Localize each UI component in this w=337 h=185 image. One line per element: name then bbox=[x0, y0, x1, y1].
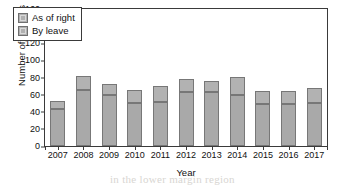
bar-segment-as-of-right[interactable] bbox=[281, 91, 296, 104]
legend-swatch-icon bbox=[18, 13, 28, 23]
bar-segment-by-leave[interactable] bbox=[255, 104, 270, 146]
y-axis-tick-label: 80 bbox=[30, 73, 45, 82]
x-axis-tick-label: 2011 bbox=[151, 151, 170, 160]
y-axis-tick-label: 60 bbox=[30, 90, 45, 99]
x-axis-tick-mark bbox=[45, 146, 46, 150]
legend-item-by-leave: By leave bbox=[18, 24, 75, 37]
bar-segment-as-of-right[interactable] bbox=[127, 90, 142, 103]
x-axis-tick-label: 2009 bbox=[99, 151, 119, 160]
bar-segment-as-of-right[interactable] bbox=[50, 101, 65, 110]
bar-segment-by-leave[interactable] bbox=[179, 92, 194, 146]
x-axis-tick-label: 2015 bbox=[253, 151, 273, 160]
bar-2012[interactable] bbox=[179, 9, 194, 146]
appeals-by-year-chart: Number of Appeals 0204060801001201401602… bbox=[0, 0, 337, 185]
bar-segment-as-of-right[interactable] bbox=[179, 79, 194, 92]
x-axis-tick-label: 2017 bbox=[304, 151, 324, 160]
bar-2009[interactable] bbox=[102, 9, 117, 146]
legend-item-as-of-right: As of right bbox=[18, 11, 75, 24]
legend-label: By leave bbox=[32, 26, 68, 36]
bar-segment-as-of-right[interactable] bbox=[204, 81, 219, 92]
x-axis-tick-label: 2008 bbox=[73, 151, 93, 160]
bar-2017[interactable] bbox=[307, 9, 322, 146]
bar-segment-by-leave[interactable] bbox=[50, 109, 65, 146]
y-axis-tick-label: 20 bbox=[30, 124, 45, 133]
x-axis-tick-mark bbox=[327, 146, 328, 150]
bar-2011[interactable] bbox=[153, 9, 168, 146]
bar-segment-by-leave[interactable] bbox=[281, 104, 296, 146]
bar-2010[interactable] bbox=[127, 9, 142, 146]
x-axis-tick-label: 2010 bbox=[125, 151, 145, 160]
bar-segment-by-leave[interactable] bbox=[102, 95, 117, 146]
bar-2014[interactable] bbox=[230, 9, 245, 146]
bar-segment-as-of-right[interactable] bbox=[153, 86, 168, 102]
bar-segment-by-leave[interactable] bbox=[127, 103, 142, 146]
y-axis-tick-label: 100 bbox=[25, 56, 45, 65]
bar-segment-by-leave[interactable] bbox=[230, 95, 245, 146]
x-axis-title: Year bbox=[44, 167, 328, 178]
x-axis-tick-label: 2016 bbox=[279, 151, 299, 160]
x-axis-tick-label: 2013 bbox=[202, 151, 222, 160]
bar-segment-by-leave[interactable] bbox=[153, 102, 168, 146]
bar-segment-as-of-right[interactable] bbox=[76, 76, 91, 90]
legend-swatch-icon bbox=[18, 26, 28, 36]
bar-2015[interactable] bbox=[255, 9, 270, 146]
bar-segment-by-leave[interactable] bbox=[307, 103, 322, 146]
bar-segment-as-of-right[interactable] bbox=[102, 84, 117, 94]
bar-segment-as-of-right[interactable] bbox=[230, 77, 245, 96]
bar-segment-as-of-right[interactable] bbox=[307, 88, 322, 103]
x-axis-tick-label: 2012 bbox=[176, 151, 196, 160]
y-axis-tick-label: 0 bbox=[35, 142, 45, 151]
bar-segment-by-leave[interactable] bbox=[76, 90, 91, 147]
x-axis-tick-label: 2007 bbox=[48, 151, 68, 160]
legend-label: As of right bbox=[32, 13, 75, 23]
plot-area: 0204060801001201401602007200820092010201… bbox=[44, 8, 328, 147]
y-axis-tick-label: 40 bbox=[30, 107, 45, 116]
bar-segment-as-of-right[interactable] bbox=[255, 91, 270, 104]
bar-2016[interactable] bbox=[281, 9, 296, 146]
chart-legend: As of right By leave bbox=[13, 7, 82, 41]
bar-2013[interactable] bbox=[204, 9, 219, 146]
x-axis-tick-label: 2014 bbox=[227, 151, 247, 160]
bar-segment-by-leave[interactable] bbox=[204, 92, 219, 146]
